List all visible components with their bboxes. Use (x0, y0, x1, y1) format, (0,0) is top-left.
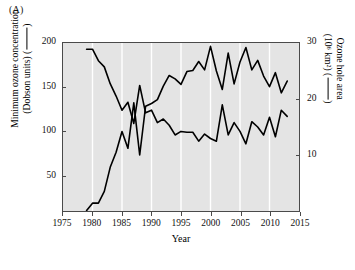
x-tick-mark-1975 (62, 212, 63, 216)
y-right-tick-label-20: 20 (307, 93, 337, 103)
data-series-lines (87, 46, 288, 210)
x-axis-title: Year (62, 233, 300, 244)
series-line-minimum-ozone-concentration (87, 49, 288, 144)
y-axis-right-title: Ozone hole area (10⁶ km²) () (322, 0, 345, 154)
y-right-tick-mark-10 (296, 155, 300, 156)
y-right-tick-label-10: 10 (307, 149, 337, 159)
y-left-tick-label-200: 200 (26, 36, 56, 46)
x-tick-mark-2010 (270, 212, 271, 216)
y-left-tick-mark-100 (62, 131, 66, 132)
x-tick-mark-1990 (151, 212, 152, 216)
x-tick-label-2015: 2015 (283, 218, 317, 228)
x-tick-mark-2005 (241, 212, 242, 216)
x-tick-mark-1980 (92, 212, 93, 216)
y-left-tick-label-50: 50 (26, 170, 56, 180)
plot-area (62, 42, 300, 212)
gridlines (93, 43, 270, 211)
y-left-tick-mark-150 (62, 87, 66, 88)
x-tick-mark-1995 (181, 212, 182, 216)
y-left-tick-label-100: 100 (26, 125, 56, 135)
series-line-ozone-hole-area (87, 46, 288, 210)
y-axis-left-title-line1: Minimum ozone concentration (9, 9, 20, 127)
y-right-tick-label-30: 30 (307, 36, 337, 46)
y-left-tick-mark-200 (62, 42, 66, 43)
x-tick-mark-2000 (211, 212, 212, 216)
y-left-tick-label-150: 150 (26, 81, 56, 91)
y-right-tick-mark-30 (296, 42, 300, 43)
chart-canvas (63, 43, 299, 211)
y-right-tick-mark-20 (296, 99, 300, 100)
x-tick-mark-1985 (122, 212, 123, 216)
y-axis-left-title-line2-end: ) (21, 24, 32, 27)
figure-panel-a: (A) Minimum ozone concentration (Dobson … (0, 0, 355, 270)
y-axis-right-title-line1: Ozone hole area (335, 37, 346, 99)
x-tick-mark-2015 (300, 212, 301, 216)
y-left-tick-mark-50 (62, 176, 66, 177)
